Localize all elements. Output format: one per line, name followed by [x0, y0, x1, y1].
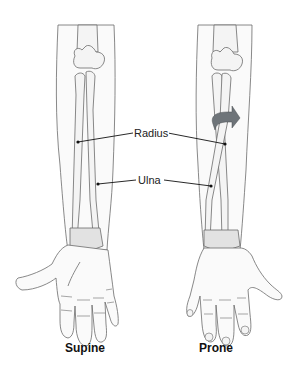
prone-caption: Prone — [199, 341, 233, 355]
prone-arm — [187, 25, 282, 346]
supine-caption: Supine — [65, 341, 105, 355]
forearm-diagram: Radius Ulna Supine Prone — [0, 0, 301, 366]
ulna-label: Ulna — [137, 174, 162, 186]
supine-arm — [16, 25, 118, 346]
radius-label: Radius — [133, 127, 169, 139]
